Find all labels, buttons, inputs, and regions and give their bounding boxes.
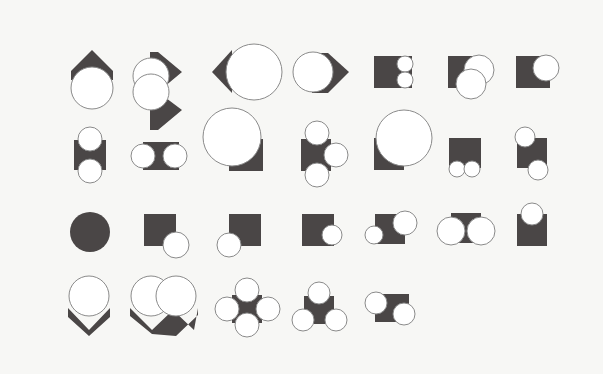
- shape-composite-r3c2: [144, 214, 189, 258]
- white-circle: [78, 127, 102, 151]
- white-circle: [533, 55, 559, 81]
- shape-composite-r3c1: [70, 212, 110, 252]
- white-circle: [397, 72, 413, 88]
- shape-composite-r1c3: [212, 44, 282, 100]
- white-circle: [515, 127, 535, 147]
- white-circle: [376, 110, 432, 166]
- shape-composite-r4c4: [292, 282, 347, 331]
- white-circle: [256, 297, 280, 321]
- white-circle: [71, 67, 113, 109]
- shape-composite-r2c2: [131, 142, 187, 170]
- white-circle: [293, 52, 333, 92]
- shape-composite-r4c3: [215, 278, 280, 337]
- white-circle: [203, 108, 261, 166]
- shape-composite-r4c1: [68, 276, 110, 336]
- white-circle: [521, 203, 543, 225]
- shape-composite-r2c6: [449, 138, 481, 177]
- white-circle: [305, 121, 329, 145]
- white-circle: [163, 144, 187, 168]
- white-circle: [78, 159, 102, 183]
- shape-composite-r2c1: [74, 127, 106, 183]
- white-circle: [235, 278, 259, 302]
- white-circle: [235, 313, 259, 337]
- white-circle: [292, 309, 314, 331]
- white-circle: [397, 56, 413, 72]
- shape-composite-r3c3: [217, 214, 261, 257]
- shape-composite-r1c1: [71, 50, 113, 109]
- white-circle: [325, 309, 347, 331]
- white-circle: [467, 217, 495, 245]
- shape-composite-r2c4: [301, 121, 348, 187]
- white-circle: [449, 161, 465, 177]
- white-circle: [69, 276, 109, 316]
- shape-composite-r1c6: [448, 55, 494, 99]
- white-circle: [163, 232, 189, 258]
- shape-composite-r3c7: [517, 203, 547, 246]
- shape-composite-r2c3: [203, 108, 263, 171]
- white-circle: [456, 69, 486, 99]
- shape-composite-r2c5: [374, 110, 432, 170]
- white-circle: [305, 163, 329, 187]
- white-circle: [393, 211, 417, 235]
- shape-composite-r3c5: [365, 211, 417, 244]
- white-circle: [226, 44, 282, 100]
- white-circle: [324, 143, 348, 167]
- shape-composite-r1c2: [133, 52, 182, 130]
- shape-composite-r1c5: [374, 56, 413, 88]
- white-circle: [133, 74, 169, 110]
- white-circle: [528, 160, 548, 180]
- shape-composite-r1c4: [293, 52, 349, 93]
- white-circle: [131, 144, 155, 168]
- white-circle: [322, 225, 342, 245]
- white-circle: [308, 282, 330, 304]
- shape-figure: [0, 0, 603, 374]
- white-circle: [215, 297, 239, 321]
- white-circle: [365, 226, 383, 244]
- white-circle: [437, 217, 465, 245]
- shape-composite-r4c2: [130, 276, 198, 336]
- shape-composite-r1c7: [516, 55, 559, 88]
- dark-shape: [70, 212, 110, 252]
- white-circle: [156, 276, 196, 316]
- white-circle: [365, 292, 387, 314]
- white-circle: [393, 303, 415, 325]
- white-circle: [217, 233, 241, 257]
- shape-composite-r4c5: [365, 292, 415, 325]
- white-circle: [464, 161, 480, 177]
- shape-composite-r3c6: [437, 213, 495, 245]
- shape-composite-r3c4: [302, 214, 342, 246]
- shape-composite-r2c7: [515, 127, 548, 180]
